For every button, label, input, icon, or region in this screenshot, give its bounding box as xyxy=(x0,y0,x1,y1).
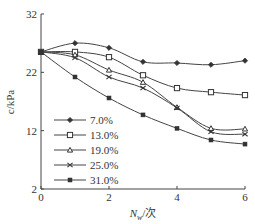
triangle-marker xyxy=(140,80,145,85)
legend-label: 19.0% xyxy=(90,144,118,156)
square-marker xyxy=(106,55,111,60)
filled-square-marker xyxy=(175,126,179,130)
x-tick-label: 2 xyxy=(106,191,112,203)
legend-item: 13.0% xyxy=(54,129,118,141)
x-axis-label: Nw/次 xyxy=(129,206,157,222)
x-tick-label: 0 xyxy=(38,191,44,203)
legend: 7.0%13.0%19.0%25.0%31.0% xyxy=(54,114,118,186)
legend-item: 31.0% xyxy=(54,174,118,186)
diamond-marker xyxy=(106,45,111,50)
square-marker xyxy=(242,92,247,97)
x-marker xyxy=(140,86,145,90)
diamond-marker xyxy=(72,41,77,46)
legend-label: 7.0% xyxy=(90,114,113,126)
filled-square-marker xyxy=(107,96,111,100)
triangle-marker xyxy=(242,126,247,131)
diamond-marker xyxy=(174,60,179,65)
y-tick-label: 32 xyxy=(26,8,37,20)
legend-item: 7.0% xyxy=(54,114,113,126)
filled-square-marker xyxy=(39,50,43,54)
legend-item: 25.0% xyxy=(54,159,118,171)
diamond-marker xyxy=(67,117,72,122)
filled-square-marker xyxy=(68,178,72,182)
legend-label: 31.0% xyxy=(90,174,118,186)
triangle-marker xyxy=(67,147,72,152)
y-tick-label: 12 xyxy=(26,125,37,137)
square-marker xyxy=(67,132,72,137)
line-chart: 02462122232 7.0%13.0%19.0%25.0%31.0% c/k… xyxy=(0,0,255,224)
triangle-marker xyxy=(106,67,111,72)
square-marker xyxy=(140,73,145,78)
diamond-marker xyxy=(140,59,145,64)
filled-square-marker xyxy=(209,138,213,142)
series-group xyxy=(38,41,247,147)
square-marker xyxy=(208,90,213,95)
diamond-marker xyxy=(208,62,213,67)
legend-item: 19.0% xyxy=(54,144,118,156)
legend-label: 13.0% xyxy=(90,129,118,141)
filled-square-marker xyxy=(243,142,247,146)
legend-label: 25.0% xyxy=(90,159,118,171)
series-line xyxy=(41,52,245,144)
y-tick-label: 22 xyxy=(26,66,37,78)
x-tick-label: 6 xyxy=(242,191,248,203)
y-axis-label: c/kPa xyxy=(4,90,16,115)
filled-square-marker xyxy=(73,75,77,79)
axes: 02462122232 xyxy=(26,8,248,203)
diamond-marker xyxy=(242,58,247,63)
square-marker xyxy=(174,85,179,90)
filled-square-marker xyxy=(141,113,145,117)
y-tick-label: 2 xyxy=(32,183,38,195)
x-marker xyxy=(106,75,111,79)
x-tick-label: 4 xyxy=(174,191,180,203)
